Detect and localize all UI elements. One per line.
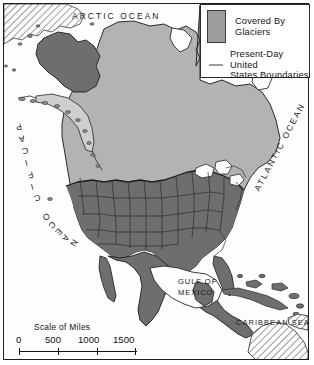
scale-tick-labels: 0 500 1000 1500: [16, 334, 146, 346]
scale-tickmark-2: [97, 348, 98, 355]
label-caribbean-sea: CARIBBEAN SEA: [236, 318, 310, 327]
scale-tick-3: 1500: [113, 334, 134, 345]
scale-tick-2: 1000: [78, 334, 99, 345]
legend-swatch-glacier: [207, 10, 226, 43]
map-figure: Covered By Glaciers Present-Day United S…: [0, 0, 314, 365]
scale-tickmark-3: [135, 348, 136, 355]
scale-bar-line: [19, 351, 137, 352]
legend-entry-glaciers: Covered By Glaciers: [207, 10, 285, 43]
legend-label-glaciers: Covered By Glaciers: [235, 16, 285, 37]
legend-entry-boundaries: Present-Day United States Boundaries: [207, 49, 309, 81]
scale-tickmark-0: [19, 348, 20, 355]
legend-label-boundaries: Present-Day United States Boundaries: [230, 49, 309, 81]
map-legend: Covered By Glaciers Present-Day United S…: [200, 4, 310, 78]
scale-tick-0: 0: [16, 334, 21, 345]
scale-tick-1: 500: [45, 334, 61, 345]
scale-bar: Scale of Miles 0 500 1000 1500: [16, 322, 146, 360]
scale-tickmark-1: [58, 348, 59, 355]
scale-title: Scale of Miles: [34, 322, 90, 332]
label-arctic-ocean: ARCTIC OCEAN: [72, 11, 160, 21]
label-gulf-of-mexico: GULF OF MEXICO: [178, 276, 217, 298]
legend-swatch-boundary-line: [209, 64, 223, 66]
scale-bar-graphic: [19, 348, 137, 355]
